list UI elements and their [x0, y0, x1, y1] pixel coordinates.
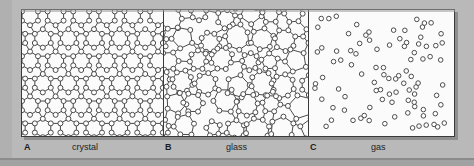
atom: [217, 108, 222, 113]
atom: [35, 18, 40, 23]
atom: [22, 108, 25, 113]
atom: [234, 99, 239, 104]
atom: [429, 21, 434, 26]
figure-container: A crystal B glass C gas: [0, 0, 474, 166]
atom: [196, 109, 201, 114]
atom: [156, 23, 161, 28]
atom: [300, 87, 305, 92]
atom: [283, 49, 288, 54]
atom: [204, 125, 209, 130]
atom: [61, 108, 66, 113]
atom: [334, 49, 339, 54]
atom: [315, 50, 320, 55]
atom: [28, 112, 33, 117]
atom: [401, 81, 406, 86]
atom: [217, 36, 222, 41]
atom: [406, 98, 411, 103]
atom: [165, 94, 170, 99]
atom: [130, 94, 135, 99]
atom: [23, 121, 28, 126]
atom: [273, 19, 278, 24]
atom: [263, 109, 268, 114]
atom: [275, 56, 280, 61]
atom: [99, 41, 104, 46]
atom: [354, 51, 359, 56]
atom: [382, 72, 387, 77]
atom: [109, 121, 114, 126]
atom: [434, 43, 439, 48]
atom: [99, 121, 104, 126]
caption-letter-a: A: [24, 140, 31, 154]
atom: [199, 43, 204, 48]
atom: [215, 46, 220, 51]
atom: [415, 17, 420, 22]
atom: [216, 87, 221, 92]
atom: [117, 90, 122, 95]
atom: [226, 121, 231, 126]
atom: [48, 85, 53, 90]
atom: [248, 51, 253, 56]
atom: [435, 125, 440, 130]
atom: [109, 76, 114, 81]
atom: [217, 123, 222, 128]
atom: [269, 132, 274, 136]
atom: [300, 78, 305, 83]
atom: [273, 66, 278, 71]
atom: [165, 26, 170, 31]
atom: [383, 121, 388, 126]
atom: [232, 135, 237, 136]
gas-particles-svg: [309, 10, 454, 136]
atom: [125, 130, 130, 135]
atom: [440, 41, 445, 46]
atom: [257, 69, 262, 74]
atom: [197, 73, 202, 78]
atom: [84, 85, 89, 90]
atom: [293, 34, 298, 39]
atom: [138, 99, 143, 104]
atom: [53, 94, 58, 99]
atom: [45, 99, 50, 104]
atom: [79, 112, 84, 117]
atom: [244, 122, 249, 127]
atom: [22, 54, 25, 59]
atom: [109, 130, 114, 135]
atom: [348, 48, 353, 53]
atom: [281, 114, 286, 119]
atom: [233, 13, 238, 18]
atom: [117, 135, 122, 136]
atom: [71, 18, 76, 23]
atom: [135, 121, 140, 126]
atom: [244, 113, 249, 118]
atom: [228, 109, 233, 114]
atom: [138, 63, 143, 68]
atom: [237, 47, 242, 52]
atom: [192, 81, 197, 86]
atom: [117, 45, 122, 50]
atom: [230, 52, 235, 57]
atom: [143, 27, 148, 32]
glass-network-svg: [164, 10, 308, 136]
atom: [226, 77, 231, 82]
caption-letter-b: B: [165, 140, 172, 154]
atom: [22, 99, 25, 104]
atom: [409, 74, 414, 79]
atom: [40, 90, 45, 95]
atom: [313, 82, 318, 87]
atom: [223, 34, 228, 39]
atom: [410, 126, 415, 131]
atom: [336, 87, 341, 92]
atom: [96, 99, 101, 104]
atom: [257, 47, 262, 52]
panel-glass: [163, 10, 308, 136]
atom: [148, 54, 153, 59]
atom: [196, 48, 201, 53]
atom: [260, 117, 265, 122]
page-bottom-band: [0, 158, 474, 166]
atom: [23, 31, 28, 36]
atom: [48, 121, 53, 126]
atom: [186, 112, 191, 117]
atom: [424, 123, 429, 128]
atom: [263, 19, 268, 24]
atom: [74, 31, 79, 36]
atom: [99, 85, 104, 90]
